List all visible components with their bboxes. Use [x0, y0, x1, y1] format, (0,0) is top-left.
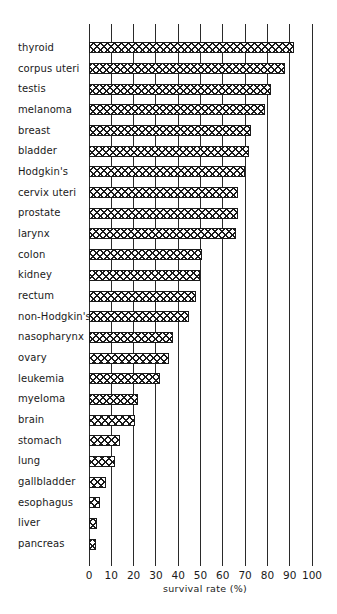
bar-breast	[89, 125, 252, 136]
bar-cervix-uteri	[89, 187, 238, 198]
bar-stomach	[89, 435, 120, 446]
bar-testis	[89, 84, 272, 95]
bar-ovary	[89, 353, 169, 364]
category-label: melanoma	[18, 104, 72, 116]
category-label: kidney	[18, 269, 52, 281]
bar-myeloma	[89, 394, 138, 405]
category-label: pancreas	[18, 538, 65, 550]
category-label: testis	[18, 83, 46, 95]
bar-esophagus	[89, 497, 100, 508]
x-tick-label: 90	[283, 569, 296, 581]
category-label: myeloma	[18, 393, 65, 405]
category-label: liver	[18, 517, 40, 529]
bar-nasopharynx	[89, 332, 174, 343]
category-label: stomach	[18, 435, 62, 447]
category-label: breast	[18, 125, 50, 137]
bar-leukemia	[89, 373, 160, 384]
x-tick-label: 70	[238, 569, 251, 581]
category-label: bladder	[18, 145, 57, 157]
category-label: non-Hodgkin's	[18, 311, 91, 323]
x-axis-title: survival rate (%)	[163, 583, 247, 595]
category-label: brain	[18, 414, 44, 426]
x-tick-label: 20	[127, 569, 140, 581]
x-tick-label: 30	[149, 569, 162, 581]
category-label: leukemia	[18, 373, 64, 385]
bar-non-hodgkin-s	[89, 311, 189, 322]
bar-prostate	[89, 208, 238, 219]
bar-kidney	[89, 270, 201, 281]
category-label: Hodgkin's	[18, 166, 68, 178]
x-tick-label: 0	[86, 569, 93, 581]
bar-lung	[89, 456, 116, 467]
bar-brain	[89, 415, 136, 426]
x-tick-label: 60	[216, 569, 229, 581]
bar-liver	[89, 518, 98, 529]
category-label: ovary	[18, 352, 47, 364]
bar-larynx	[89, 228, 236, 239]
gridline-90	[289, 24, 290, 566]
x-tick-label: 80	[261, 569, 274, 581]
bar-pancreas	[89, 539, 97, 550]
category-label: lung	[18, 455, 40, 467]
category-label: gallbladder	[18, 476, 75, 488]
x-tick-label: 40	[172, 569, 185, 581]
category-label: prostate	[18, 207, 61, 219]
category-label: corpus uteri	[18, 63, 79, 75]
category-label: cervix uteri	[18, 187, 76, 199]
x-tick-label: 50	[194, 569, 207, 581]
bar-rectum	[89, 291, 196, 302]
survival-rate-bar-chart: thyroidcorpus uteritestismelanomabreastb…	[0, 0, 337, 614]
x-tick-label: 10	[105, 569, 118, 581]
bar-thyroid	[89, 42, 294, 53]
bar-hodgkin-s	[89, 166, 245, 177]
x-tick-label: 100	[302, 569, 322, 581]
category-label: colon	[18, 249, 45, 261]
gridline-80	[267, 24, 268, 566]
category-label: nasopharynx	[18, 331, 84, 343]
bar-bladder	[89, 146, 250, 157]
bar-colon	[89, 249, 203, 260]
bar-melanoma	[89, 104, 265, 115]
category-label: rectum	[18, 290, 54, 302]
category-label: larynx	[18, 228, 50, 240]
category-label: thyroid	[18, 42, 54, 54]
category-label: esophagus	[18, 497, 73, 509]
gridline-100	[312, 24, 313, 566]
bar-gallbladder	[89, 477, 107, 488]
bar-corpus-uteri	[89, 63, 285, 74]
